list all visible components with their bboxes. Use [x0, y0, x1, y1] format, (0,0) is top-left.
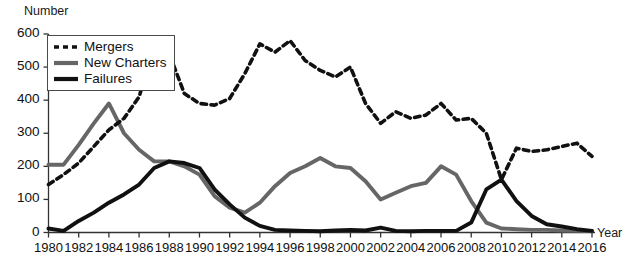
x-tick-label: 2008: [457, 240, 486, 255]
y-tick-label: 100: [0, 190, 40, 205]
series-line-failures: [49, 161, 593, 231]
x-tick-label: 1998: [306, 240, 335, 255]
gray-line-swatch: [53, 56, 79, 70]
x-tick-label: 2000: [336, 240, 365, 255]
x-tick-label: 1990: [185, 240, 214, 255]
x-tick-label: 2010: [487, 240, 516, 255]
x-tick-label: 2006: [427, 240, 456, 255]
x-tick-label: 2016: [578, 240, 607, 255]
x-tick-label: 1994: [245, 240, 274, 255]
dashed-line-swatch: [53, 40, 79, 54]
x-tick-label: 1992: [215, 240, 244, 255]
x-tick-label: 1984: [94, 240, 123, 255]
x-tick-label: 2014: [547, 240, 576, 255]
x-axis-ticks: [49, 233, 593, 238]
y-tick-label: 500: [0, 58, 40, 73]
x-tick-label: 2002: [366, 240, 395, 255]
black-line-swatch: [53, 72, 79, 86]
x-tick-label: 1986: [125, 240, 154, 255]
x-tick-label: 1980: [34, 240, 63, 255]
legend-item-mergers: Mergers: [53, 39, 167, 55]
bank-structure-line-chart: Number Year 0100200300400500600 19801982…: [0, 0, 626, 265]
x-tick-label: 2012: [517, 240, 546, 255]
legend-item-new-charters: New Charters: [53, 55, 167, 71]
y-tick-label: 200: [0, 157, 40, 172]
y-tick-label: 300: [0, 124, 40, 139]
x-tick-label: 1982: [64, 240, 93, 255]
x-tick-label: 1996: [276, 240, 305, 255]
x-tick-label: 1988: [155, 240, 184, 255]
legend-label-new-charters: New Charters: [84, 55, 167, 71]
legend-label-mergers: Mergers: [84, 39, 134, 55]
series-line-new-charters: [49, 103, 593, 230]
legend-label-failures: Failures: [84, 71, 132, 87]
y-tick-label: 0: [0, 224, 40, 239]
y-tick-label: 600: [0, 25, 40, 40]
legend-item-failures: Failures: [53, 71, 167, 87]
y-tick-label: 400: [0, 91, 40, 106]
x-tick-label: 2004: [396, 240, 425, 255]
chart-legend: Mergers New Charters Failures: [47, 35, 175, 91]
